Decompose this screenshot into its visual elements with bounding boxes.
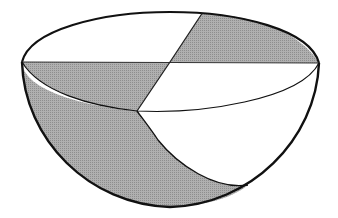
hemisphere-diagram (0, 0, 338, 218)
